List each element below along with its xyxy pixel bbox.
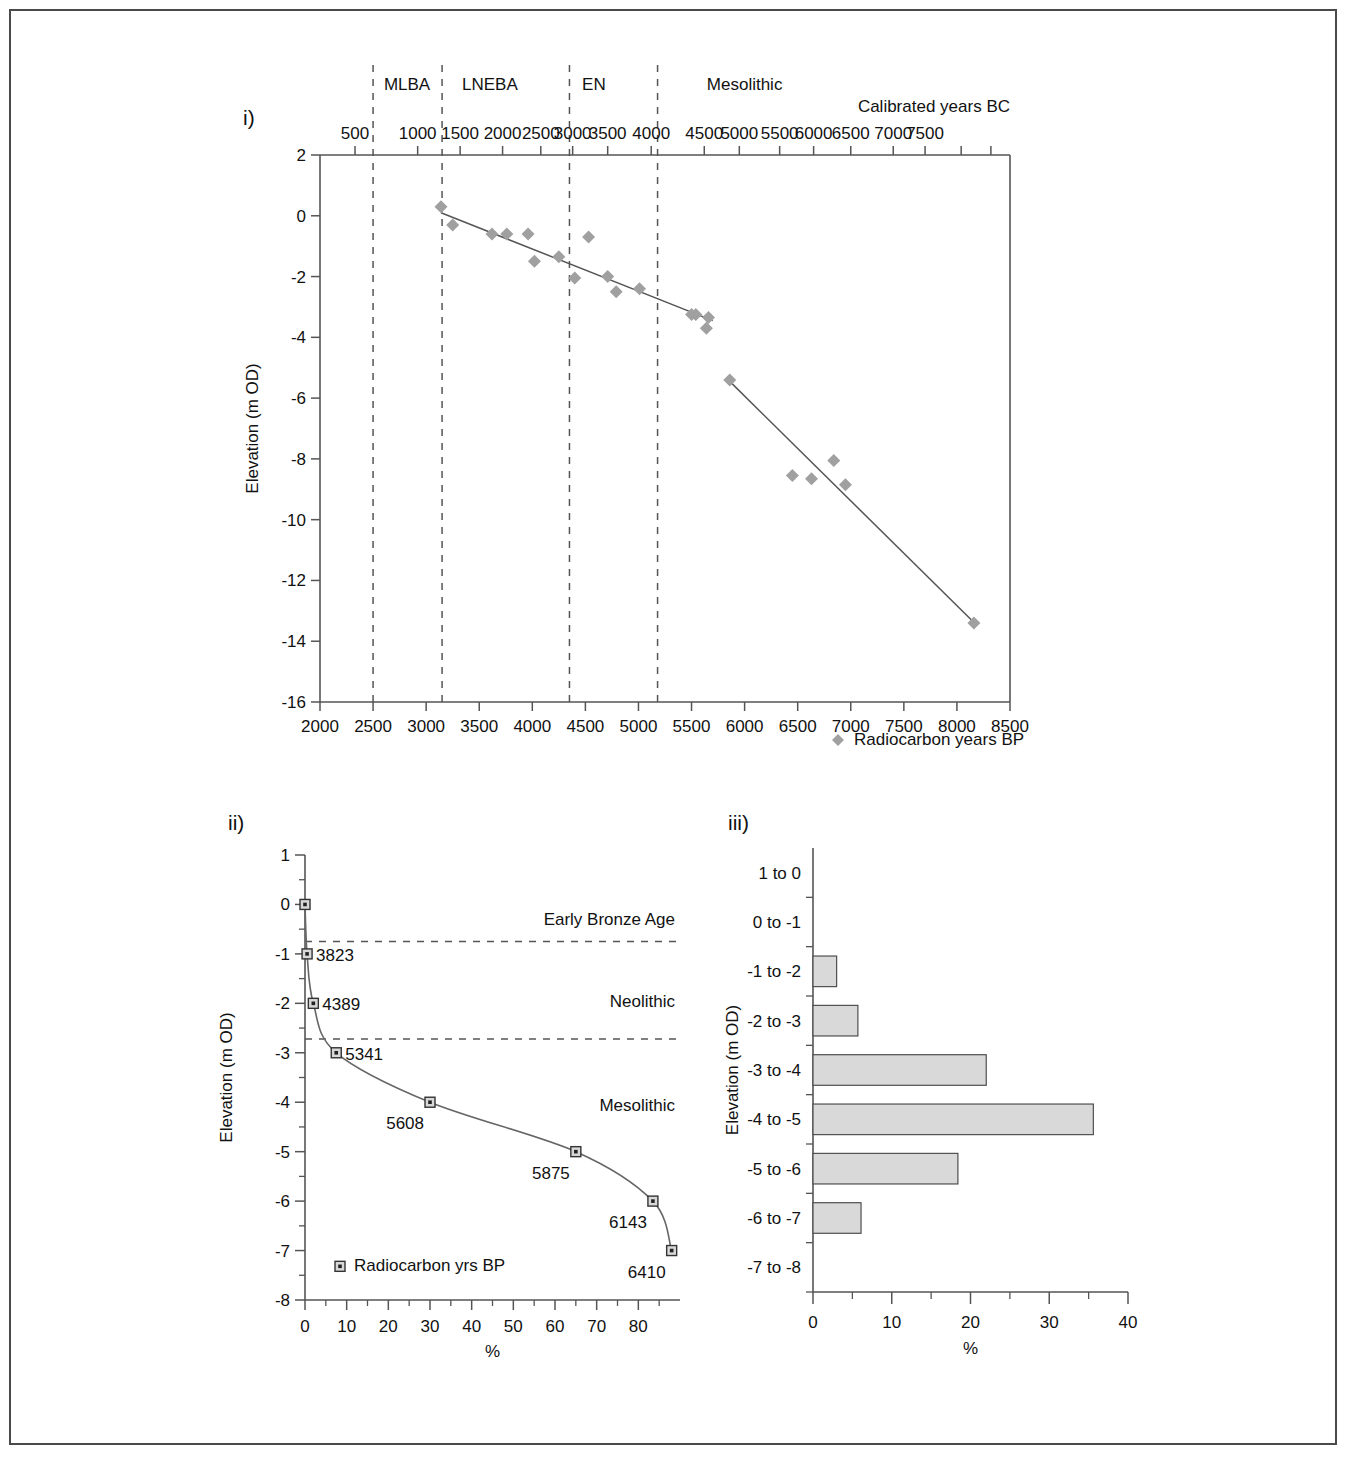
y-axis-tick-label: 1 — [281, 846, 290, 865]
scatter-point — [839, 478, 852, 491]
curve-point — [302, 949, 312, 959]
x-axis-tick-label: 4000 — [513, 717, 551, 736]
period-label-mesolithic: Mesolithic — [599, 1096, 675, 1115]
bar--2-to--3 — [813, 1005, 858, 1036]
x-axis-tick-label: 3000 — [407, 717, 445, 736]
period-label-mesolithic: Mesolithic — [707, 75, 783, 94]
y-axis-tick-label: -3 — [275, 1044, 290, 1063]
top-axis-tick-label: 6500 — [832, 124, 870, 143]
scatter-point — [435, 200, 448, 213]
curve-point — [571, 1147, 581, 1157]
y-axis-tick-label: -7 — [275, 1242, 290, 1261]
curve-point — [648, 1196, 658, 1206]
x-axis-tick-label: 10 — [882, 1313, 901, 1332]
panel-iii-label: iii) — [728, 811, 749, 834]
curve-point — [667, 1246, 677, 1256]
category-label: -4 to -5 — [747, 1110, 801, 1129]
x-axis-title: % — [485, 1342, 500, 1361]
y-axis-tick-label: -1 — [275, 945, 290, 964]
y-axis-tick-label: -16 — [281, 693, 306, 712]
legend-label: Radiocarbon years BP — [854, 730, 1024, 749]
category-label: -3 to -4 — [747, 1061, 801, 1080]
top-axis-tick-label: 6000 — [795, 124, 833, 143]
percentage-curve — [305, 904, 672, 1250]
legend-marker-square — [335, 1261, 345, 1271]
x-axis-tick-label: 6000 — [726, 717, 764, 736]
category-label: -7 to -8 — [747, 1258, 801, 1277]
y-axis-tick-label: -5 — [275, 1143, 290, 1162]
category-label: 1 to 0 — [758, 864, 801, 883]
point-value-label: 5608 — [386, 1114, 424, 1133]
bar--1-to--2 — [813, 956, 837, 987]
curve-point — [300, 899, 310, 909]
scatter-point — [700, 322, 713, 335]
x-axis-tick-label: 0 — [808, 1313, 817, 1332]
top-axis-tick-label: 3000 — [554, 124, 592, 143]
category-label: -6 to -7 — [747, 1209, 801, 1228]
bar--5-to--6 — [813, 1153, 958, 1184]
figure-root: i)Calibrated years BCMLBALNEBAENMesolith… — [0, 0, 1348, 1462]
panel-i-label: i) — [243, 106, 255, 129]
scatter-point — [522, 228, 535, 241]
x-axis-tick-label: 4500 — [566, 717, 604, 736]
x-axis-tick-label: 30 — [421, 1317, 440, 1336]
category-label: -2 to -3 — [747, 1012, 801, 1031]
top-axis-tick-label: 7500 — [906, 124, 944, 143]
curve-point — [331, 1048, 341, 1058]
x-axis-tick-label: 30 — [1040, 1313, 1059, 1332]
scatter-point — [528, 255, 541, 268]
scatter-point — [582, 231, 595, 244]
y-axis-tick-label: -2 — [275, 994, 290, 1013]
point-value-label: 6143 — [609, 1213, 647, 1232]
category-label: -5 to -6 — [747, 1160, 801, 1179]
top-axis-tick-label: 4500 — [685, 124, 723, 143]
point-value-label: 6410 — [628, 1263, 666, 1282]
x-axis-tick-label: 60 — [546, 1317, 565, 1336]
top-axis-tick-label: 500 — [341, 124, 369, 143]
x-axis-tick-label: 5500 — [673, 717, 711, 736]
x-axis-tick-label: 3500 — [460, 717, 498, 736]
category-label: 0 to -1 — [753, 913, 801, 932]
panel-ii-label: ii) — [228, 811, 244, 834]
x-axis-tick-label: 70 — [587, 1317, 606, 1336]
point-value-label: 5875 — [532, 1164, 570, 1183]
period-label-mlba: MLBA — [384, 75, 431, 94]
bar--4-to--5 — [813, 1104, 1093, 1135]
scatter-point — [446, 218, 459, 231]
curve-point — [425, 1097, 435, 1107]
y-axis-tick-label: 0 — [281, 895, 290, 914]
scatter-point — [610, 285, 623, 298]
scatter-point — [805, 472, 818, 485]
y-axis-tick-label: -4 — [291, 328, 306, 347]
y-axis-tick-label: -8 — [275, 1291, 290, 1310]
scatter-point — [723, 373, 736, 386]
point-value-label: 4389 — [322, 995, 360, 1014]
panel-iii-bar-chart: iii)1 to 00 to -1-1 to -2-2 to -3-3 to -… — [700, 800, 1220, 1400]
y-axis-tick-label: -14 — [281, 632, 306, 651]
x-axis-tick-label: 80 — [629, 1317, 648, 1336]
x-axis-tick-label: 2000 — [301, 717, 339, 736]
x-axis-tick-label: 20 — [379, 1317, 398, 1336]
top-axis-tick-label: 3500 — [589, 124, 627, 143]
top-axis-title: Calibrated years BC — [858, 97, 1010, 116]
y-axis-tick-label: -8 — [291, 450, 306, 469]
top-axis-tick-label: 1000 — [399, 124, 437, 143]
x-axis-tick-label: 10 — [337, 1317, 356, 1336]
y-axis-title: Elevation (m OD) — [217, 1012, 236, 1142]
bar--3-to--4 — [813, 1055, 986, 1086]
scatter-point — [827, 454, 840, 467]
top-axis-tick-label: 4000 — [632, 124, 670, 143]
bar--6-to--7 — [813, 1203, 861, 1234]
x-axis-tick-label: 40 — [462, 1317, 481, 1336]
period-label-lneba: LNEBA — [462, 75, 518, 94]
y-axis-tick-label: 0 — [297, 207, 306, 226]
x-axis-tick-label: 5000 — [620, 717, 658, 736]
y-axis-tick-label: 2 — [297, 146, 306, 165]
y-axis-title: Elevation (m OD) — [723, 1005, 742, 1135]
scatter-point — [702, 311, 715, 324]
top-axis-tick-label: 5000 — [720, 124, 758, 143]
trend-line-0 — [441, 213, 713, 321]
y-axis-tick-label: -6 — [275, 1192, 290, 1211]
x-axis-tick-label: 50 — [504, 1317, 523, 1336]
y-axis-tick-label: -12 — [281, 571, 306, 590]
